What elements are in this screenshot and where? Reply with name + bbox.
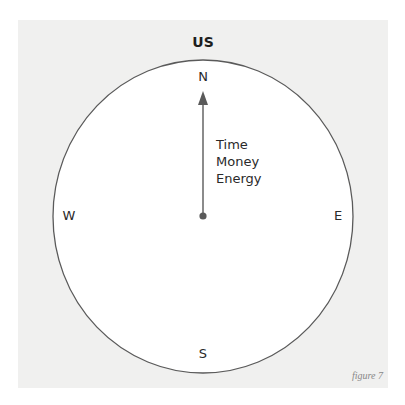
label-energy: Energy (216, 170, 262, 187)
diagram-title: US (183, 34, 223, 50)
direction-north: N (193, 69, 213, 84)
figure-caption: figure 7 (352, 370, 383, 381)
origin-dot (199, 212, 206, 219)
direction-south: S (193, 346, 213, 361)
direction-east: E (328, 208, 348, 223)
compass-diagram (0, 0, 405, 405)
arrow-labels: Time Money Energy (216, 136, 262, 187)
label-time: Time (216, 136, 262, 153)
direction-west: W (59, 208, 79, 223)
label-money: Money (216, 153, 262, 170)
